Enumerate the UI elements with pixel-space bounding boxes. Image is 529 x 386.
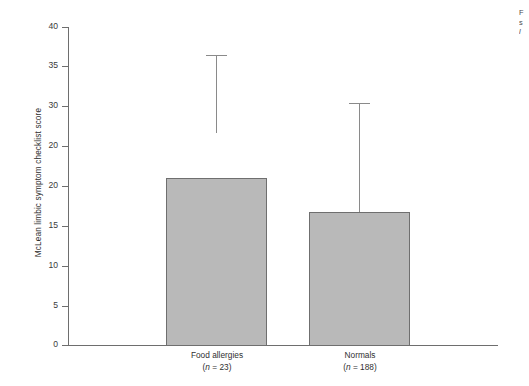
category-n-normals: (n = 188) (299, 362, 421, 374)
edge-caption-line-2: s (519, 18, 529, 28)
y-tick-25: 20 (62, 146, 68, 147)
y-tick-label-0: 0 (53, 339, 58, 349)
y-tick-30: 30 (62, 106, 68, 107)
y-tick-20: 20 (62, 186, 68, 187)
bar-normals (309, 212, 410, 346)
y-axis-line (68, 27, 69, 346)
category-label-normals: Normals (n = 188) (299, 350, 421, 373)
x-axis-line (68, 345, 498, 346)
category-n-food-allergies: (n = 23) (156, 362, 278, 374)
y-tick-0: 0 (62, 345, 68, 346)
figure-container: McLean limbic symptom checklist score 40… (0, 0, 529, 386)
y-tick-label-20: 20 (48, 180, 58, 190)
y-tick-10: 10 (62, 266, 68, 267)
y-tick-label-30: 30 (48, 100, 58, 110)
y-tick-label-40: 40 (48, 21, 58, 31)
y-tick-label-25: 20 (48, 140, 58, 150)
category-label-food-allergies: Food allergies (n = 23) (156, 350, 278, 373)
error-bar-stem-normals (359, 103, 360, 212)
y-tick-5: 5 (62, 306, 68, 307)
edge-caption-fragment: F s l (519, 8, 529, 37)
category-name-normals: Normals (345, 350, 376, 360)
y-tick-35: 35 (62, 66, 68, 67)
edge-caption-line-3: l (519, 27, 529, 37)
y-tick-label-10: 10 (48, 260, 58, 270)
y-tick-40: 40 (62, 27, 68, 28)
y-tick-label-35: 35 (48, 60, 58, 70)
edge-caption-line-1: F (519, 8, 529, 18)
y-tick-label-15: 15 (48, 220, 58, 230)
bar-food-allergies (166, 178, 267, 346)
error-bar-cap-food-allergies (206, 55, 227, 56)
error-bar-stem-food-allergies (216, 55, 217, 133)
error-bar-cap-normals (349, 103, 370, 104)
category-name-food-allergies: Food allergies (191, 350, 243, 360)
y-axis-title: McLean limbic symptom checklist score (34, 33, 43, 333)
y-tick-label-5: 5 (53, 300, 58, 310)
y-tick-15: 15 (62, 226, 68, 227)
